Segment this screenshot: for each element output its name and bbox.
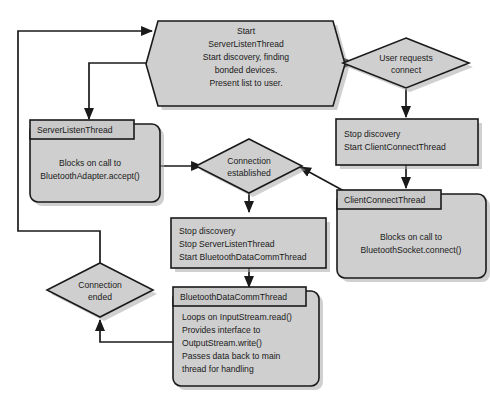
- client-connect-thread-line-0: Blocks on call to: [380, 232, 442, 242]
- bluetooth-data-comm-thread-tab-label: BluetoothDataCommThread: [180, 292, 287, 302]
- stop-discovery-start-comm-line-1: Stop ServerListenThread: [179, 239, 275, 249]
- flowchart-canvas: Start ServerListenThread Start discovery…: [0, 0, 490, 402]
- connection-ended-line-1: ended: [88, 292, 112, 302]
- node-client-connect-thread[interactable]: ClientConnectThread Blocks on call to Bl…: [337, 190, 490, 282]
- start-line-4: Present list to user.: [209, 78, 282, 88]
- server-listen-thread-tab-label: ServerListenThread: [37, 125, 113, 135]
- server-listen-thread-line-0: Blocks on call to: [59, 158, 121, 168]
- start-line-2: Start discovery, finding: [203, 52, 290, 62]
- bluetooth-data-comm-thread-line-1: Provides interface to: [182, 325, 261, 335]
- bluetooth-data-comm-thread-line-2: OutputStream.write(): [182, 338, 262, 348]
- server-listen-thread-line-1: BluetoothAdapter.accept(): [40, 171, 140, 181]
- node-bluetooth-data-comm-thread[interactable]: BluetoothDataCommThread Loops on InputSt…: [173, 287, 323, 390]
- start-line-0: Start: [237, 26, 256, 36]
- connection-ended-diamond: [47, 263, 153, 317]
- stop-discovery-start-comm-line-2: Start BluetoothDataCommThread: [179, 252, 307, 262]
- bluetooth-thread-flowchart: Start ServerListenThread Start discovery…: [0, 0, 490, 402]
- bluetooth-data-comm-thread-line-3: Passes data back to main: [182, 351, 281, 361]
- stop-discovery-start-client-line-1: Start ClientConnectThread: [344, 142, 446, 152]
- node-start[interactable]: Start ServerListenThread Start discovery…: [146, 21, 349, 110]
- node-user-requests-connect[interactable]: User requests connect: [343, 38, 473, 92]
- user-requests-connect-diamond: [343, 38, 469, 88]
- node-stop-discovery-start-comm[interactable]: Stop discovery Stop ServerListenThread S…: [171, 218, 330, 272]
- node-stop-discovery-start-client[interactable]: Stop discovery Start ClientConnectThread: [336, 119, 482, 169]
- stop-discovery-start-comm-line-0: Stop discovery: [179, 226, 236, 236]
- stop-discovery-start-client-line-0: Stop discovery: [344, 129, 401, 139]
- user-requests-connect-line-0: User requests: [379, 53, 433, 63]
- connection-established-line-1: established: [227, 168, 271, 178]
- edge-data-comm-thread-to-connection-ended: [100, 320, 177, 342]
- edge-start-to-server-listen-thread: [89, 63, 157, 119]
- client-connect-thread-tab-label: ClientConnectThread: [344, 195, 425, 205]
- connection-established-diamond: [196, 139, 302, 193]
- node-connection-ended[interactable]: Connection ended: [47, 263, 157, 321]
- node-server-listen-thread[interactable]: ServerListenThread Blocks on call to Blu…: [30, 120, 164, 206]
- start-line-3: bonded devices.: [215, 65, 278, 75]
- bluetooth-data-comm-thread-line-0: Loops on InputStream.read(): [182, 312, 292, 322]
- client-connect-thread-line-1: BluetoothSocket.connect(): [361, 245, 462, 255]
- bluetooth-data-comm-thread-line-4: thread for handling: [182, 364, 254, 374]
- user-requests-connect-line-1: connect: [391, 65, 422, 75]
- node-connection-established[interactable]: Connection established: [196, 139, 306, 197]
- connection-ended-line-0: Connection: [78, 280, 122, 290]
- connection-established-line-0: Connection: [227, 156, 271, 166]
- start-line-1: ServerListenThread: [208, 39, 284, 49]
